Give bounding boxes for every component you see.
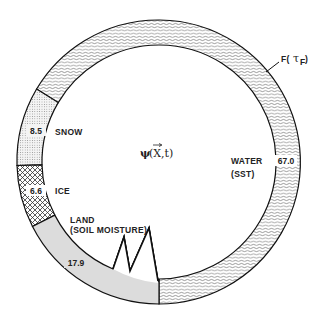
ring-label: F( τ F ) xyxy=(281,52,308,67)
psi-args: (X,t) xyxy=(149,147,173,160)
ring-label-tau: τ xyxy=(293,52,299,65)
center-label: ψ (X,t) xyxy=(140,144,173,161)
diagram-canvas: 8.5 SNOW 6.6 ICE LAND (SOIL MOISTURE) 17… xyxy=(0,0,319,321)
ice-label: ICE xyxy=(55,186,70,196)
snow-label: SNOW xyxy=(55,127,83,137)
land-label: LAND xyxy=(70,215,95,225)
labels-layer: 8.5 SNOW 6.6 ICE LAND (SOIL MOISTURE) 17… xyxy=(0,0,319,321)
ice-value: 6.6 xyxy=(30,186,42,196)
water-value: 67.0 xyxy=(278,156,295,166)
land-sublabel: (SOIL MOISTURE) xyxy=(70,225,147,235)
water-label: WATER xyxy=(231,156,263,166)
land-value: 17.9 xyxy=(68,258,85,268)
snow-value: 8.5 xyxy=(30,126,42,136)
water-sublabel: (SST) xyxy=(231,169,255,179)
ring-label-f: F( xyxy=(281,54,290,64)
ring-label-close: ) xyxy=(305,54,308,64)
